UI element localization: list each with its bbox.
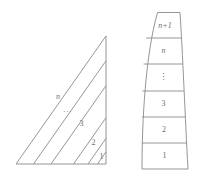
column-label-band-1: 1 (163, 151, 167, 160)
column-label-band-2: 2 (162, 125, 166, 134)
triangle-label-ellipsis: ··· (63, 107, 72, 116)
column-label-band-3: 3 (162, 99, 166, 108)
column-label-band-n: n (162, 46, 166, 55)
triangle-label-strip-n: n (56, 92, 60, 101)
column-label-ellipsis: ⋮ (159, 72, 168, 82)
triangle-label-strip-3: 3 (80, 119, 84, 128)
column-label-band-n-plus-1: n+1 (158, 21, 171, 30)
figure-canvas: 1 2 3 ··· n n+1 n ⋮ 3 2 1 (0, 0, 200, 186)
left-figure-group: 1 2 3 ··· n (16, 36, 106, 164)
right-figure-group: n+1 n ⋮ 3 2 1 (142, 13, 188, 170)
figure-root: 1 2 3 ··· n n+1 n ⋮ 3 2 1 (0, 0, 200, 186)
triangle-label-strip-1: 1 (100, 152, 104, 161)
triangle-label-strip-2: 2 (92, 138, 96, 147)
